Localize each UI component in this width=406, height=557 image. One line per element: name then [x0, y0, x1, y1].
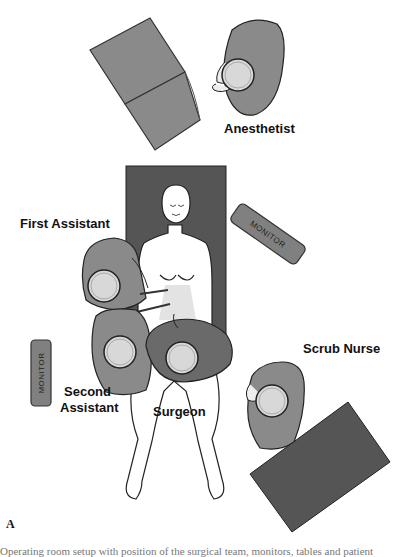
label-anesthetist: Anesthetist [224, 121, 295, 136]
figure-caption: Operating room setup with position of th… [0, 545, 406, 557]
monitor-right: MONITOR [229, 202, 307, 266]
anesthetist-figure [212, 20, 284, 115]
label-second-assistant-line1: Second [64, 384, 111, 399]
monitor-left: MONITOR [31, 340, 51, 406]
label-first-assistant: First Assistant [20, 216, 110, 231]
scrub-nurse-figure [246, 362, 304, 449]
label-surgeon: Surgeon [153, 404, 206, 419]
label-second-assistant-line2: Assistant [60, 400, 119, 415]
svg-text:MONITOR: MONITOR [37, 352, 46, 393]
second-assistant-figure [92, 309, 151, 395]
panel-label: A [6, 517, 15, 532]
label-scrub-nurse: Scrub Nurse [303, 341, 380, 356]
anesthesia-cart [90, 18, 200, 150]
